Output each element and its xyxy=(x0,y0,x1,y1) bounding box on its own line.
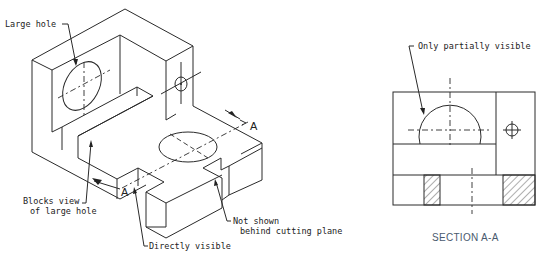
label-not-shown-2: behind cutting plane xyxy=(240,226,342,236)
label-directly-visible: Directly visible xyxy=(149,241,231,251)
label-blocks-view-2: of large hole xyxy=(30,206,97,216)
label-not-shown-1: Not shown xyxy=(233,216,279,226)
label-large-hole: Large hole xyxy=(5,19,56,29)
section-caption: SECTION A-A xyxy=(432,232,499,243)
section-view xyxy=(393,46,535,214)
drawing-canvas: A A Large hole Blocks view of large hole… xyxy=(0,0,541,256)
label-blocks-view-1: Blocks view xyxy=(23,196,80,206)
cutting-plane-label-top: A xyxy=(250,120,258,132)
cutting-plane-label-bottom: A xyxy=(121,186,129,198)
label-only-partially-visible: Only partially visible xyxy=(418,41,531,51)
